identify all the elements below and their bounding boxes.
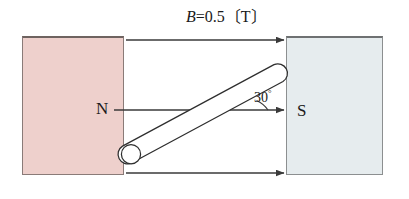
field-strength-label: B=0.5〔T〕: [186, 8, 267, 26]
field-unit: 〔T〕: [225, 8, 267, 25]
conducting-rod: [118, 64, 287, 164]
field-value: =0.5: [196, 8, 225, 25]
field-symbol: B: [186, 8, 196, 25]
angle-label: 30°: [254, 89, 272, 105]
degree-symbol: °: [268, 88, 272, 98]
diagram-vector-layer: [0, 0, 409, 199]
rod-end-cap: [121, 145, 140, 164]
angle-value: 30: [254, 90, 268, 105]
magnetic-field-diagram: N S B=0.5〔T〕 30°: [0, 0, 409, 199]
